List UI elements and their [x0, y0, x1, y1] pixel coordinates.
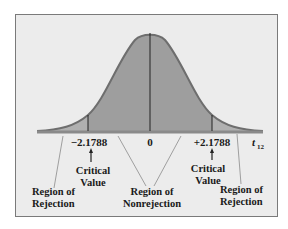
- tick-zero: 0: [147, 136, 153, 148]
- rejection-left-label-2: Rejection: [32, 198, 75, 209]
- pointer-nonrejection-right: [154, 136, 181, 186]
- arrow-left-head: [89, 148, 93, 153]
- arrow-right-head: [210, 148, 214, 153]
- nonrejection-label-1: Region of: [131, 186, 174, 197]
- critical-left-label-2: Value: [80, 177, 106, 188]
- axis-variable: t: [252, 136, 256, 148]
- rejection-left-label-1: Region of: [32, 186, 75, 197]
- nonrejection-label-2: Nonrejection: [123, 198, 181, 209]
- axis-variable-subscript: 12: [257, 143, 265, 151]
- rejection-right-label-2: Rejection: [220, 196, 263, 207]
- tick-left: −2.1788: [71, 136, 108, 148]
- tick-right: +2.1788: [194, 136, 231, 148]
- pointer-right-rejection: [237, 134, 241, 184]
- rejection-right-label-1: Region of: [220, 184, 263, 195]
- critical-right-label-2: Value: [195, 175, 221, 186]
- pointer-left-rejection: [54, 136, 63, 188]
- critical-left-label-1: Critical: [76, 165, 110, 176]
- critical-right-label-1: Critical: [191, 163, 225, 174]
- pointer-nonrejection-left: [118, 136, 146, 186]
- t-distribution-diagram: −2.1788 0 +2.1788 t 12 Critical Value Cr…: [0, 0, 288, 229]
